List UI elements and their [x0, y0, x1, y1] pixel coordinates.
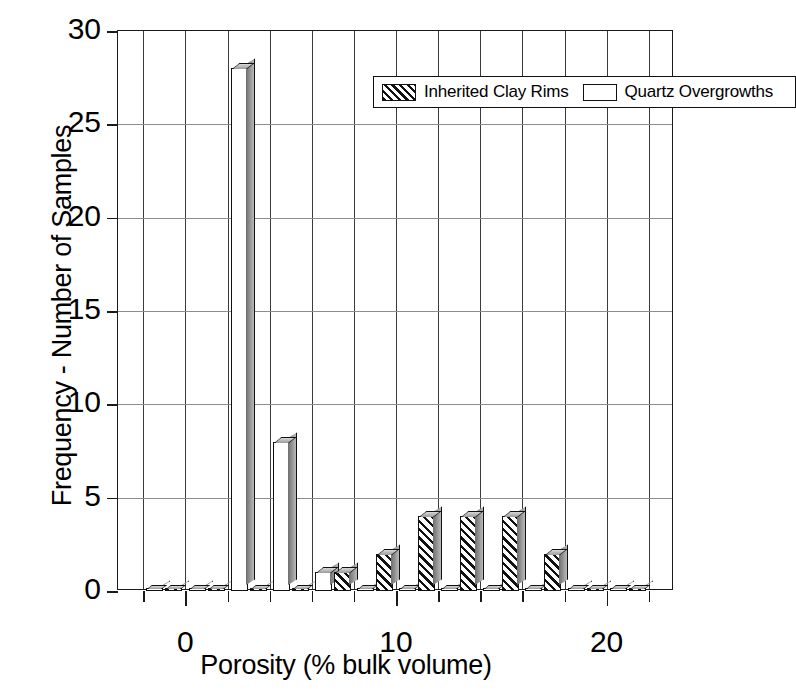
bar	[544, 554, 561, 591]
vertical-gridline	[649, 31, 650, 589]
x-axis-tick	[565, 591, 567, 602]
bar	[568, 588, 585, 591]
horizontal-gridline	[118, 124, 672, 125]
y-axis-tick	[107, 498, 118, 500]
bar	[483, 588, 500, 591]
vertical-gridline	[143, 31, 144, 589]
y-axis-tick	[107, 591, 118, 593]
x-tick-label: 10	[356, 627, 436, 657]
y-tick-label: 0	[41, 574, 101, 604]
bar	[587, 588, 604, 591]
x-axis-tick	[438, 591, 440, 602]
bar	[208, 588, 225, 591]
bar-side-face	[517, 507, 526, 585]
x-axis-tick	[354, 591, 356, 602]
bar	[231, 68, 248, 591]
y-tick-label: 15	[41, 294, 101, 324]
bar	[441, 588, 458, 591]
y-axis-tick	[107, 31, 118, 33]
bar-side-face	[246, 59, 255, 585]
x-axis-tick	[270, 591, 272, 602]
grid-layer	[118, 31, 672, 589]
x-axis-tick	[185, 591, 187, 606]
x-tick-label: 0	[145, 627, 225, 657]
legend-label: Quartz Overgrowths	[625, 82, 774, 102]
vertical-gridline	[565, 31, 566, 589]
bar-side-face	[475, 507, 484, 585]
bar	[418, 516, 435, 591]
bar	[376, 554, 393, 591]
vertical-gridline	[312, 31, 313, 589]
bar	[273, 442, 290, 591]
vertical-gridline	[185, 31, 186, 589]
x-axis-tick	[312, 591, 314, 602]
bar-side-face	[288, 432, 297, 585]
vertical-gridline	[270, 31, 271, 589]
x-tick-label: 20	[567, 627, 647, 657]
y-axis-tick	[107, 218, 118, 220]
bar	[292, 588, 309, 591]
bar	[460, 516, 477, 591]
bar	[334, 572, 351, 591]
x-axis-tick	[396, 591, 398, 606]
plot-area: 01020 Inherited Clay Rims Quartz Overgro…	[117, 30, 673, 590]
horizontal-gridline	[118, 498, 672, 499]
bar	[250, 588, 267, 591]
vertical-gridline	[228, 31, 229, 589]
vertical-gridline	[480, 31, 481, 589]
y-axis-tick	[107, 311, 118, 313]
bar	[165, 588, 182, 591]
x-axis-tick	[607, 591, 609, 606]
bar	[629, 588, 646, 591]
y-tick-label: 5	[41, 481, 101, 511]
horizontal-gridline	[118, 218, 672, 219]
bar	[610, 588, 627, 591]
legend-swatch-white-icon	[583, 84, 617, 101]
horizontal-gridline	[118, 311, 672, 312]
x-axis-tick	[522, 591, 524, 602]
bar	[189, 588, 206, 591]
bar	[357, 588, 374, 591]
x-axis-tick	[480, 591, 482, 602]
y-tick-label: 10	[41, 387, 101, 417]
bar-side-face	[433, 507, 442, 585]
y-tick-label: 30	[41, 14, 101, 44]
bar	[502, 516, 519, 591]
legend-label: Inherited Clay Rims	[424, 82, 569, 102]
vertical-gridline	[607, 31, 608, 589]
bar	[315, 572, 332, 591]
y-axis-tick	[107, 404, 118, 406]
vertical-gridline	[522, 31, 523, 589]
vertical-gridline	[396, 31, 397, 589]
y-axis-tick	[107, 124, 118, 126]
y-tick-label: 25	[41, 107, 101, 137]
bar	[525, 588, 542, 591]
legend-swatch-hatched-icon	[382, 84, 416, 101]
horizontal-gridline	[118, 404, 672, 405]
x-axis-tick	[143, 591, 145, 602]
vertical-gridline	[438, 31, 439, 589]
chart-legend: Inherited Clay Rims Quartz Overgrowths	[373, 76, 796, 108]
bar	[399, 588, 416, 591]
vertical-gridline	[354, 31, 355, 589]
bar	[146, 588, 163, 591]
x-axis-tick	[649, 591, 651, 602]
y-tick-label: 20	[41, 201, 101, 231]
legend-item-quartz-overgrowths: Quartz Overgrowths	[583, 82, 788, 102]
x-axis-tick	[228, 591, 230, 602]
legend-item-inherited-clay-rims: Inherited Clay Rims	[382, 82, 583, 102]
